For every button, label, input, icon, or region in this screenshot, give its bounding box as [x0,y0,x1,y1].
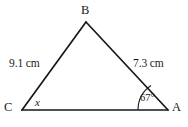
vertex-label-c: C [4,101,12,114]
side-length-label-cb: 9.1 cm [9,58,40,70]
vertex-label-a: A [172,101,181,114]
angle-measure-label-a: 67° [140,93,155,104]
triangle-diagram: B C A 9.1 cm 7.3 cm 67° x [0,0,188,127]
side-length-label-ba: 7.3 cm [133,58,164,70]
angle-variable-label-c: x [35,97,40,108]
vertex-label-b: B [81,4,89,17]
